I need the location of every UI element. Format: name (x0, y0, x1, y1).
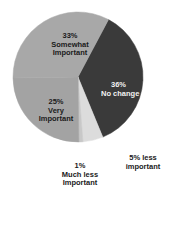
no-change-line1: No change (101, 90, 145, 99)
label-very-important: 25% Very Important (30, 98, 82, 124)
label-5pct-less-important: 5% less important (118, 154, 168, 171)
somewhat-line2: Important (40, 49, 100, 58)
five-less-line2: important (118, 163, 168, 172)
much-less-line2: Important (52, 179, 108, 188)
label-somewhat-important: 33% Somewhat Important (40, 32, 100, 58)
very-line2: Important (30, 115, 82, 124)
label-much-less-important: 1% Much less Important (52, 162, 108, 188)
label-no-change: 36% No change (101, 81, 145, 98)
